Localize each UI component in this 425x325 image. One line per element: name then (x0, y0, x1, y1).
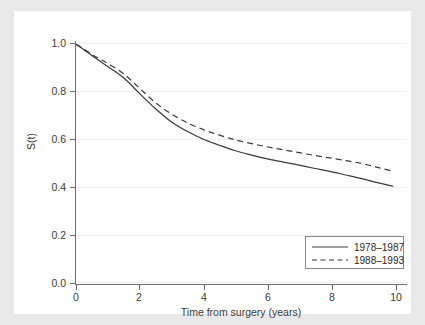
survival-curve-figure: 1.0 0.8 0.6 0.4 0.2 0.0 0 2 4 6 8 10 S(t… (0, 0, 425, 325)
y-tick-mark-0.8 (70, 91, 75, 92)
x-tick-mark-10 (396, 285, 397, 290)
y-tick-mark-0.6 (70, 139, 75, 140)
y-tick-label-1.0: 1.0 (32, 38, 66, 49)
x-tick-mark-6 (268, 285, 269, 290)
y-tick-mark-1.0 (70, 43, 75, 44)
series-line-1978-1987 (76, 44, 393, 186)
x-tick-label-0: 0 (61, 292, 91, 303)
x-tick-label-2: 2 (124, 292, 154, 303)
x-axis-line (75, 284, 407, 285)
x-tick-mark-2 (139, 285, 140, 290)
x-tick-mark-0 (76, 285, 77, 290)
legend-swatch-solid-icon (311, 242, 349, 252)
legend-label-1978-1987: 1978–1987 (354, 242, 404, 253)
x-axis-label: Time from surgery (years) (76, 306, 406, 318)
y-tick-label-0.2: 0.2 (32, 230, 66, 241)
y-tick-mark-0.4 (70, 187, 75, 188)
x-tick-mark-4 (204, 285, 205, 290)
legend-item-1988-1993: 1988–1993 (311, 254, 398, 266)
x-tick-label-6: 6 (253, 292, 283, 303)
legend-item-1978-1987: 1978–1987 (311, 241, 398, 253)
y-tick-mark-0.0 (70, 283, 75, 284)
x-tick-label-4: 4 (189, 292, 219, 303)
x-tick-label-8: 8 (317, 292, 347, 303)
y-axis-line (75, 41, 76, 285)
legend-label-1988-1993: 1988–1993 (354, 255, 404, 266)
legend-box: 1978–1987 1988–1993 (305, 236, 404, 269)
plot-canvas: 1.0 0.8 0.6 0.4 0.2 0.0 0 2 4 6 8 10 S(t… (14, 11, 411, 314)
y-tick-label-0.6: 0.6 (32, 134, 66, 145)
x-tick-label-10: 10 (381, 292, 411, 303)
series-line-1988-1993 (76, 44, 393, 171)
legend-swatch-dashed-icon (311, 255, 349, 265)
y-tick-label-0.8: 0.8 (32, 86, 66, 97)
y-axis-label: S(t) (25, 133, 37, 150)
x-tick-mark-8 (332, 285, 333, 290)
y-tick-mark-0.2 (70, 235, 75, 236)
y-tick-label-0.0: 0.0 (32, 278, 66, 289)
y-tick-label-0.4: 0.4 (32, 182, 66, 193)
